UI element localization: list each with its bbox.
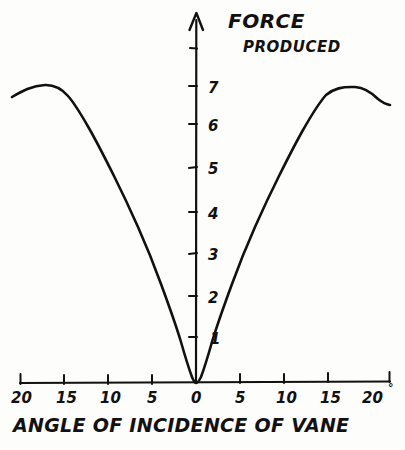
y-label-6: 6 xyxy=(208,117,218,135)
y-label-2: 2 xyxy=(208,289,218,307)
x-label-plus5: 5 xyxy=(235,389,245,407)
x-label-minus5: 5 xyxy=(147,389,157,407)
x-label-plus15: 15 xyxy=(320,389,341,407)
y-label-4: 4 xyxy=(207,205,218,223)
x-label-minus15: 15 xyxy=(56,389,77,407)
x-label-plus10: 10 xyxy=(276,389,297,407)
x-label-zero: 0 xyxy=(191,389,201,407)
y-tick-unlabeled xyxy=(190,48,197,49)
y-label-7: 7 xyxy=(208,79,219,97)
y-axis xyxy=(190,13,204,383)
y-label-1: 1 xyxy=(210,330,220,348)
y-label-3: 3 xyxy=(208,246,218,264)
title-line-produced: PRODUCED xyxy=(243,38,341,56)
hand-drawn-chart: FORCE PRODUCED 7 6 5 4 3 2 1 20 15 10 5 … xyxy=(0,0,405,450)
x-axis-line xyxy=(20,382,390,384)
x-label-minus10: 10 xyxy=(100,389,121,407)
x-label-minus20: 20 xyxy=(11,389,32,407)
y-tick-3 xyxy=(189,253,197,254)
x-axis-title: ANGLE OF INCIDENCE OF VANE xyxy=(11,414,349,436)
y-axis-labels: 7 6 5 4 3 2 1 xyxy=(207,79,220,348)
x-axis-labels: 20 15 10 5 0 5 10 15 20 ° xyxy=(11,381,394,407)
x-axis xyxy=(20,372,390,384)
degree-symbol-icon: ° xyxy=(388,381,394,394)
title-line-force: FORCE xyxy=(228,9,305,33)
chart-canvas: FORCE PRODUCED 7 6 5 4 3 2 1 20 15 10 5 … xyxy=(0,0,405,450)
x-label-plus20: 20 xyxy=(362,389,383,407)
chart-title: FORCE PRODUCED xyxy=(228,9,341,56)
y-label-5: 5 xyxy=(208,160,218,178)
data-curve xyxy=(12,85,390,383)
y-tick-5 xyxy=(189,167,197,168)
